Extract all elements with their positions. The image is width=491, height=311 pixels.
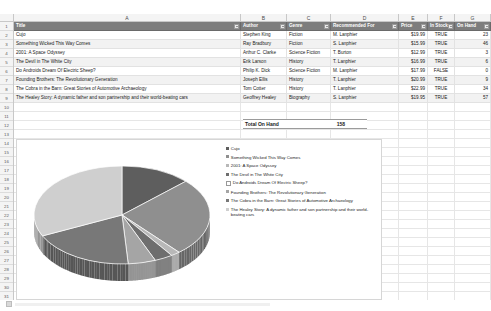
- cell-title[interactable]: 2001: A Space Odyssey: [14, 49, 241, 58]
- header-cell-price[interactable]: Price: [399, 22, 428, 31]
- cell-genre[interactable]: History: [287, 58, 331, 67]
- empty-cell[interactable]: [428, 265, 455, 274]
- row-number[interactable]: 21: [0, 202, 13, 211]
- table-row[interactable]: 2001: A Space OdysseyArthur C. ClarkeSci…: [14, 49, 491, 58]
- row-number[interactable]: 30: [0, 283, 13, 292]
- cell-price[interactable]: $16.99: [399, 58, 428, 67]
- cell-author[interactable]: Tom Cotter: [241, 85, 287, 94]
- row-number[interactable]: 8: [0, 85, 13, 94]
- cell-recommended-for[interactable]: T. Burton: [331, 49, 399, 58]
- column-header-d[interactable]: D: [331, 14, 399, 21]
- table-row[interactable]: Do Androids Dream Of Electric Sheep?Phil…: [14, 67, 491, 76]
- cell-genre[interactable]: History: [287, 85, 331, 94]
- empty-cell[interactable]: [428, 229, 455, 238]
- filter-dropdown-icon[interactable]: [234, 24, 239, 29]
- column-header-b[interactable]: B: [241, 14, 287, 21]
- empty-cell[interactable]: [455, 193, 491, 202]
- row-number[interactable]: 27: [0, 256, 13, 265]
- empty-cell[interactable]: [455, 103, 491, 112]
- empty-cell[interactable]: [455, 274, 491, 283]
- cell-in-stock[interactable]: TRUE: [428, 58, 455, 67]
- cell-title[interactable]: Founding Brothers: The Revolutionary Gen…: [14, 76, 241, 85]
- cell-title[interactable]: Cujo: [14, 31, 241, 40]
- column-header-c[interactable]: C: [287, 14, 331, 21]
- cell-recommended-for[interactable]: T. Lanphier: [331, 76, 399, 85]
- empty-cell[interactable]: [287, 130, 331, 139]
- empty-cell[interactable]: [428, 274, 455, 283]
- cell-in-stock[interactable]: TRUE: [428, 31, 455, 40]
- row-number[interactable]: 28: [0, 265, 13, 274]
- row-number[interactable]: 15: [0, 148, 13, 157]
- empty-cell[interactable]: [455, 265, 491, 274]
- cell-in-stock[interactable]: TRUE: [428, 49, 455, 58]
- row-number[interactable]: 23: [0, 220, 13, 229]
- cell-in-stock[interactable]: TRUE: [428, 40, 455, 49]
- cell-author[interactable]: Ray Bradbury: [241, 40, 287, 49]
- empty-cell[interactable]: [399, 130, 428, 139]
- cell-genre[interactable]: Biography: [287, 94, 331, 103]
- column-header-f[interactable]: F: [428, 14, 455, 21]
- cell-in-stock[interactable]: TRUE: [428, 76, 455, 85]
- empty-cell[interactable]: [428, 256, 455, 265]
- cell-price[interactable]: $15.99: [399, 40, 428, 49]
- empty-cell[interactable]: [399, 193, 428, 202]
- filter-dropdown-icon[interactable]: [421, 24, 426, 29]
- cell-price[interactable]: $17.99: [399, 67, 428, 76]
- empty-cell[interactable]: [399, 274, 428, 283]
- empty-cell[interactable]: [428, 139, 455, 148]
- empty-cell[interactable]: [399, 166, 428, 175]
- cell-title[interactable]: The Cobra in the Barn: Great Stories of …: [14, 85, 241, 94]
- row-number[interactable]: 25: [0, 238, 13, 247]
- select-all-corner[interactable]: [0, 14, 14, 21]
- empty-cell[interactable]: [399, 139, 428, 148]
- table-row[interactable]: The Cobra in the Barn: Great Stories of …: [14, 85, 491, 94]
- cell-price[interactable]: $12.99: [399, 49, 428, 58]
- empty-cell[interactable]: [428, 112, 455, 121]
- empty-cell[interactable]: [428, 184, 455, 193]
- empty-cell[interactable]: [428, 148, 455, 157]
- row-number[interactable]: 1: [0, 22, 13, 31]
- row-number[interactable]: 6: [0, 67, 13, 76]
- empty-cell[interactable]: [14, 112, 241, 121]
- pie-chart[interactable]: CujoSomething Wicked This Way Comes2001:…: [16, 139, 382, 300]
- empty-cell[interactable]: [399, 103, 428, 112]
- row-number[interactable]: 3: [0, 40, 13, 49]
- row-number[interactable]: 2: [0, 31, 13, 40]
- filter-dropdown-icon[interactable]: [392, 24, 397, 29]
- empty-cell[interactable]: [399, 175, 428, 184]
- empty-cell[interactable]: [455, 283, 491, 292]
- filter-dropdown-icon[interactable]: [324, 24, 329, 29]
- cell-on-hand[interactable]: 34: [455, 85, 491, 94]
- empty-cell[interactable]: [14, 121, 241, 130]
- empty-cell[interactable]: [14, 103, 241, 112]
- row-number[interactable]: 29: [0, 274, 13, 283]
- cell-price[interactable]: $20.99: [399, 76, 428, 85]
- cell-genre[interactable]: Fiction: [287, 31, 331, 40]
- row-number[interactable]: 10: [0, 103, 13, 112]
- empty-cell[interactable]: [428, 103, 455, 112]
- empty-cell[interactable]: [455, 121, 491, 130]
- empty-cell[interactable]: [428, 157, 455, 166]
- table-row[interactable]: CujoStephen KingFictionM. Lanphier$19.99…: [14, 31, 491, 40]
- empty-cell[interactable]: [399, 229, 428, 238]
- cell-author[interactable]: Joseph Ellis: [241, 76, 287, 85]
- cell-recommended-for[interactable]: M. Lanphier: [331, 31, 399, 40]
- empty-cell[interactable]: [455, 256, 491, 265]
- empty-cell[interactable]: [399, 265, 428, 274]
- column-header-g[interactable]: G: [455, 14, 491, 21]
- empty-cell[interactable]: [428, 211, 455, 220]
- empty-cell[interactable]: [428, 238, 455, 247]
- header-cell-in-stock[interactable]: In Stock: [428, 22, 455, 31]
- cell-in-stock[interactable]: TRUE: [428, 94, 455, 103]
- row-number[interactable]: 9: [0, 94, 13, 103]
- row-number[interactable]: 18: [0, 175, 13, 184]
- empty-cell[interactable]: [428, 130, 455, 139]
- empty-cell[interactable]: [399, 238, 428, 247]
- row-number[interactable]: 14: [0, 139, 13, 148]
- cell-recommended-for[interactable]: S. Lanphier: [331, 94, 399, 103]
- empty-cell[interactable]: [399, 283, 428, 292]
- row-number[interactable]: 26: [0, 247, 13, 256]
- empty-cell[interactable]: [399, 202, 428, 211]
- row-number[interactable]: 11: [0, 112, 13, 121]
- empty-cell[interactable]: [428, 121, 455, 130]
